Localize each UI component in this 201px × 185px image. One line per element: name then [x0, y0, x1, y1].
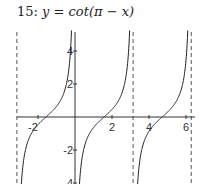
x-tick-label: -2: [28, 121, 38, 133]
y-tick-label: -2: [63, 144, 73, 156]
cot-curves: [21, 31, 188, 185]
y-tick-label: 2: [67, 78, 73, 90]
cot-branch: [21, 31, 71, 185]
y-tick-label: -4: [63, 177, 73, 184]
cot-branch: [79, 31, 129, 185]
x-tick-label: 4: [146, 121, 152, 133]
plot-area: -2246 42-2-4: [0, 0, 201, 184]
y-tick-label: 4: [67, 45, 73, 57]
asymptotes: [17, 32, 191, 184]
x-tick-label: 6: [183, 121, 189, 133]
cot-branch: [137, 31, 187, 185]
x-tick-label: 2: [109, 121, 115, 133]
x-tick-labels: -2246: [28, 115, 189, 133]
